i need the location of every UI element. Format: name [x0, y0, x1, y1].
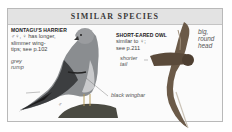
grey-rump-label: grey rump	[11, 58, 24, 71]
male-symbol-label: ♂	[58, 101, 62, 107]
short-eared-owl-caption: SHORT-EARED OWL similar to ♀; see p.211	[116, 32, 167, 51]
label-line: round	[198, 35, 214, 42]
label-line: tail	[120, 61, 137, 67]
label-line: rump	[11, 64, 24, 70]
short-eared-owl-illustration	[0, 0, 232, 132]
caption-line: see p.211	[116, 45, 167, 51]
big-round-head-label: big, round head	[198, 28, 214, 50]
label-line: big,	[198, 28, 214, 35]
label-line: head	[198, 42, 214, 49]
montagus-harrier-caption: MONTAGU'S HARRIER ♂♀, ♀ has longer, slim…	[11, 27, 67, 53]
caption-line: tips; see p.102	[11, 46, 67, 52]
black-wingbar-label: black wingbar	[111, 92, 145, 98]
shorter-tail-label: shorter tail	[120, 55, 137, 68]
